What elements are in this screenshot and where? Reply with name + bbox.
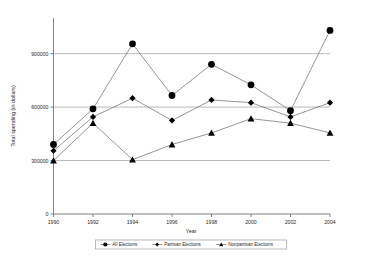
legend-marker-icon: [103, 242, 107, 246]
x-tick-label: 1996: [166, 219, 178, 225]
legend-label: Nonpartisan Elections: [228, 242, 273, 247]
legend-label: Partisan Elections: [164, 242, 201, 247]
data-point-marker: [208, 61, 215, 68]
x-tick-label: 2002: [285, 219, 297, 225]
spending-line-chart: 0300000600000900000 19901992199419961998…: [0, 0, 367, 262]
x-tick-label: 1990: [48, 219, 60, 225]
data-point-marker: [248, 81, 255, 88]
legend-label: All Elections: [112, 242, 138, 247]
x-axis-title: Year: [186, 228, 197, 234]
x-tick-label: 1998: [206, 219, 218, 225]
data-point-marker: [327, 27, 334, 34]
x-tick-label: 2000: [245, 219, 257, 225]
y-tick-label: 600000: [31, 104, 48, 110]
x-tick-label: 1994: [127, 219, 139, 225]
data-point-marker: [169, 92, 176, 99]
y-tick-label: 300000: [31, 158, 48, 164]
y-axis-title: Total spending (in dollars): [10, 85, 16, 147]
x-tick-label: 1992: [87, 219, 99, 225]
y-tick-label: 900000: [31, 51, 48, 57]
chart-legend: All ElectionsPartisan ElectionsNonpartis…: [95, 240, 286, 249]
y-tick-label: 0: [46, 211, 49, 217]
data-point-marker: [50, 141, 57, 148]
x-tick-label: 2004: [324, 219, 336, 225]
data-point-marker: [129, 40, 136, 47]
data-point-marker: [287, 107, 294, 114]
chart-container: 0300000600000900000 19901992199419961998…: [0, 0, 367, 262]
data-point-marker: [90, 105, 97, 112]
